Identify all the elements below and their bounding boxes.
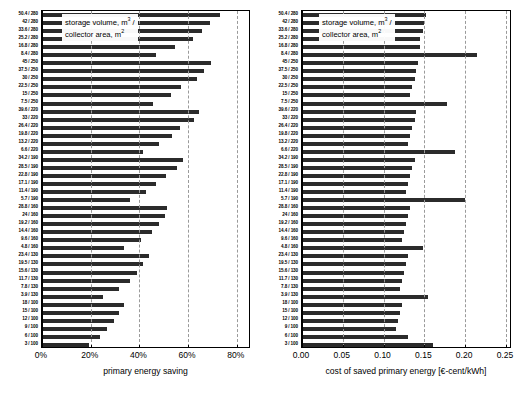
bar	[42, 311, 119, 315]
bar	[42, 214, 165, 218]
y-axis-tick-label: 7.5 / 250	[21, 100, 38, 105]
x-axis-tick-label: 60%	[179, 350, 196, 361]
x-axis-tick-label: 0.15	[415, 350, 432, 361]
y-axis-tick-label: 14.4 / 160	[19, 229, 38, 234]
y-axis-tick-label: 16.8 / 280	[19, 44, 38, 49]
x-axis-tick-label: 0.05	[334, 350, 351, 361]
bar-row	[42, 301, 249, 309]
y-axis-tick-label: 19.5 / 130	[279, 261, 298, 266]
bar	[42, 77, 197, 81]
x-axis-tick-mark	[188, 345, 189, 348]
bar-row	[302, 269, 510, 277]
y-axis-tick-label: 19.8 / 220	[279, 132, 298, 137]
bar-row	[302, 116, 510, 124]
bar	[302, 230, 404, 234]
bar	[42, 230, 152, 234]
bar-row	[42, 124, 249, 132]
y-axis-tick-label: 50.4 / 280	[279, 12, 298, 17]
y-axis-tick-label: 7.8 / 130	[21, 285, 38, 290]
bar-row	[42, 317, 249, 325]
bar-row	[302, 317, 510, 325]
bar-row	[302, 244, 510, 252]
bar	[42, 93, 171, 97]
bar	[42, 150, 143, 154]
bar	[302, 150, 455, 154]
gridline-0.20	[465, 11, 466, 347]
x-axis-tick-mark	[465, 345, 466, 348]
x-axis-tick-mark	[343, 345, 344, 348]
y-axis-tick-label: 9.6 / 160	[21, 237, 38, 242]
bar-row	[42, 285, 249, 293]
bar-row	[302, 309, 510, 317]
legend-superscript-2: 2	[378, 28, 381, 34]
y-axis-tick-label: 37.5 / 250	[19, 68, 38, 73]
y-axis-tick-label: 16.8 / 280	[279, 44, 298, 49]
y-axis-tick-label: 15.6 / 130	[19, 269, 38, 274]
bar	[42, 279, 130, 283]
bar-row	[42, 59, 249, 67]
x-axis-tick-mark	[506, 345, 507, 348]
bar-row	[302, 83, 510, 91]
bar-row	[42, 269, 249, 277]
y-axis-tick-label: 6 / 100	[25, 334, 38, 339]
y-axis-labels-right: 50.4 / 28042 / 28033.6 / 28025.2 / 28016…	[260, 10, 300, 348]
y-axis-tick-label: 22.5 / 250	[19, 84, 38, 89]
y-axis-tick-label: 7.8 / 130	[281, 285, 298, 290]
bar-row	[302, 124, 510, 132]
y-axis-tick-label: 12 / 100	[282, 317, 298, 322]
bar	[42, 246, 124, 250]
gridline-0.25	[506, 11, 507, 347]
bar	[42, 134, 172, 138]
gridline-0.15	[424, 11, 425, 347]
bar-row	[302, 212, 510, 220]
x-axis-tick-mark	[42, 345, 43, 348]
bar-row	[302, 252, 510, 260]
bar-row	[42, 228, 249, 236]
bar-row	[42, 75, 249, 83]
gridline-0.05	[343, 11, 344, 347]
plot-area-left	[41, 10, 250, 348]
y-axis-tick-label: 11.7 / 130	[279, 277, 298, 282]
bar	[42, 174, 166, 178]
legend-line-2: collector area, m2	[322, 27, 392, 39]
x-axis-tick-label: 0.20	[456, 350, 473, 361]
bar-row	[302, 67, 510, 75]
y-axis-tick-label: 3 / 100	[25, 342, 38, 347]
legend-left: storage volume, m3 / collector area, m2	[62, 14, 138, 41]
bar-row	[42, 164, 249, 172]
y-axis-tick-label: 9 / 100	[285, 325, 298, 330]
x-axis-tick-mark	[384, 345, 385, 348]
bar-row	[42, 220, 249, 228]
bar-row	[42, 260, 249, 268]
gridline-40%	[139, 11, 140, 347]
gridline-0%	[42, 11, 43, 347]
bar	[302, 287, 400, 291]
y-axis-tick-label: 13.2 / 220	[19, 140, 38, 145]
bar	[42, 158, 183, 162]
y-axis-tick-label: 37.5 / 250	[279, 68, 298, 73]
bar	[42, 142, 159, 146]
bar	[302, 61, 418, 65]
bar	[302, 142, 408, 146]
y-axis-tick-label: 33.6 / 280	[19, 28, 38, 33]
y-axis-tick-label: 17.1 / 190	[19, 181, 38, 186]
bar-row	[42, 333, 249, 341]
bar	[302, 303, 402, 307]
y-axis-tick-label: 5.7 / 190	[21, 197, 38, 202]
y-axis-tick-label: 8.4 / 280	[21, 52, 38, 57]
bar	[42, 85, 181, 89]
bar	[302, 206, 410, 210]
bar-row	[302, 51, 510, 59]
bar-row	[302, 132, 510, 140]
gridline-0.10	[384, 11, 385, 347]
bar	[42, 166, 177, 170]
y-axis-tick-label: 4.8 / 160	[281, 245, 298, 250]
y-axis-tick-label: 25.2 / 280	[279, 36, 298, 41]
y-axis-tick-label: 11.4 / 190	[279, 189, 298, 194]
y-axis-tick-label: 45 / 250	[22, 60, 38, 65]
y-axis-tick-label: 33 / 220	[22, 116, 38, 121]
bar-row	[42, 325, 249, 333]
bar	[42, 262, 143, 266]
legend-storage-volume-text: storage volume, m	[65, 18, 127, 27]
y-axis-tick-label: 19.2 / 160	[279, 221, 298, 226]
